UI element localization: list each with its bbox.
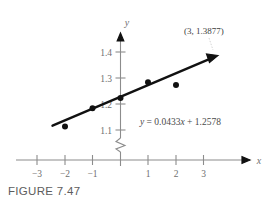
x-tick-label-minus1: −1 (87, 169, 97, 179)
data-point (173, 82, 179, 88)
x-tick-label-1: 1 (146, 169, 151, 179)
regression-equation: y = 0.0433x + 1.2578 (139, 117, 221, 127)
figure-container: −3 −2 −1 1 2 3 x 1.4 1.3 (0, 0, 276, 207)
equation-eq: = 0.0433 (144, 117, 180, 127)
x-tick-label-minus2: −2 (60, 169, 70, 179)
data-point (118, 95, 124, 101)
x-axis-group: −3 −2 −1 1 2 3 x (16, 155, 262, 179)
axis-break-zigzag (116, 138, 125, 152)
y-axis-arrowhead (117, 33, 124, 41)
y-axis-label: y (124, 17, 130, 28)
x-axis-arrowhead (242, 157, 250, 164)
regression-line (53, 57, 215, 126)
x-axis-label: x (256, 155, 262, 166)
equation-rhs: + 1.2578 (185, 117, 221, 127)
data-point (90, 105, 96, 111)
x-tick-label-minus3: −3 (32, 169, 42, 179)
annotation-point-label: (3, 1.3877) (184, 26, 224, 36)
y-tick-label-1-4: 1.4 (100, 48, 112, 58)
annotation-leader-line (209, 38, 213, 50)
y-tick-label-1-3: 1.3 (100, 74, 112, 84)
scatter-plot: −3 −2 −1 1 2 3 x 1.4 1.3 (0, 0, 276, 207)
figure-caption: FIGURE 7.47 (8, 185, 80, 197)
y-tick-label-1-1: 1.1 (100, 126, 112, 136)
data-point (145, 79, 151, 85)
data-point (62, 124, 68, 130)
y-axis-group: 1.4 1.3 1.2 1.1 y (100, 17, 130, 166)
annotation-group: (3, 1.3877) (184, 26, 224, 50)
x-tick-label-2: 2 (174, 169, 179, 179)
trendline-group (53, 54, 219, 126)
trendline-arrowhead (207, 54, 219, 63)
x-tick-label-3: 3 (201, 169, 206, 179)
